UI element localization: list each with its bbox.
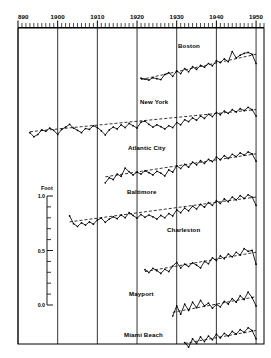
axis-tick-label-1930: 1930 [170,13,185,20]
series-label-mayport: Mayport [129,290,154,297]
data-point [200,160,202,162]
data-point [255,63,257,65]
data-point [180,212,182,214]
data-point [124,167,126,169]
axis-tick-label-1920: 1920 [130,13,145,20]
data-point [152,267,154,269]
data-point [176,209,178,211]
data-point [220,114,222,116]
data-point [188,166,190,168]
data-point [148,79,150,81]
data-point [216,112,218,114]
data-point [156,218,158,220]
data-point [49,127,51,129]
series-label-miami-beach: Miami Beach [124,331,163,338]
data-point [188,71,190,73]
data-point [164,217,166,219]
sea-level-trend-chart: 890190019101920193019401950Foot0.00.51.0… [0,0,271,358]
data-point [192,66,194,68]
data-point [223,198,225,200]
data-point [192,161,194,163]
data-point [220,203,222,205]
series-charleston: Charleston [144,226,257,274]
data-point [255,204,257,206]
data-point [216,260,218,262]
data-point [33,136,35,138]
data-point [180,267,182,269]
axis-tick-label-1950: 1950 [249,13,264,20]
data-point [116,128,118,130]
data-point [77,226,79,228]
data-point [152,216,154,218]
data-point [231,51,233,53]
data-point [184,303,186,305]
data-point [184,119,186,121]
data-point [172,76,174,78]
data-point [247,106,249,108]
data-point [212,307,214,309]
data-point [128,123,130,125]
data-point [144,78,146,80]
data-point [168,125,170,127]
data-point [97,127,99,129]
data-point [212,161,214,163]
data-point [73,127,75,129]
data-point [247,250,249,252]
data-point [223,332,225,334]
series-line [145,249,256,274]
data-point [69,124,71,126]
data-point [227,253,229,255]
data-point [81,132,83,134]
data-point [180,313,182,315]
data-point [188,210,190,212]
data-point [136,217,138,219]
data-point [65,126,67,128]
data-point [112,179,114,181]
data-point [204,163,206,165]
data-point [160,273,162,275]
data-point [188,266,190,268]
data-point [200,300,202,302]
data-point [140,121,142,123]
data-point [152,174,154,176]
data-point [172,215,174,217]
data-point [164,268,166,270]
data-point [89,221,91,223]
data-point [212,65,214,67]
data-point [148,172,150,174]
data-point [243,53,245,55]
data-point [227,335,229,337]
data-point [160,215,162,217]
data-point [188,121,190,123]
data-point [108,177,110,179]
data-point [148,124,150,126]
series-label-charleston: Charleston [167,226,200,233]
data-point [172,127,174,129]
data-point [239,54,241,56]
data-point [227,61,229,63]
data-point [176,305,178,307]
data-point [227,303,229,305]
data-point [192,301,194,303]
data-point [192,205,194,207]
data-point [69,215,71,217]
data-point [235,301,237,303]
series-atlantic-city: Atlantic City [104,144,256,184]
data-point [251,196,253,198]
data-point [192,117,194,119]
data-point [216,156,218,158]
data-point [164,175,166,177]
data-point [164,128,166,130]
data-point [132,174,134,176]
data-point [196,264,198,266]
scale-bar-title: Foot [41,185,53,191]
data-point [132,215,134,217]
data-point [184,207,186,209]
data-point [156,124,158,126]
scale-tick-label-1: 1.0 [38,193,45,199]
data-point [212,339,214,341]
data-point [247,327,249,329]
data-point [204,66,206,68]
data-point [112,126,114,128]
series-miami-beach: Miami Beach [124,327,257,348]
